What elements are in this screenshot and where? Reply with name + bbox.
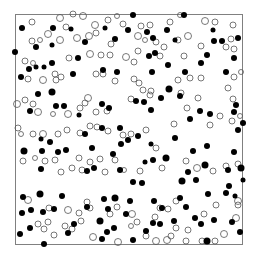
open-point bbox=[212, 238, 218, 244]
filled-point bbox=[235, 127, 241, 133]
filled-point bbox=[204, 143, 210, 149]
filled-point bbox=[202, 162, 209, 169]
open-point bbox=[97, 156, 103, 162]
filled-point bbox=[84, 204, 90, 210]
filled-point bbox=[97, 218, 104, 225]
open-point bbox=[173, 225, 179, 231]
open-point bbox=[33, 156, 38, 161]
filled-point bbox=[150, 220, 156, 226]
filled-point bbox=[198, 60, 204, 66]
open-point bbox=[29, 19, 35, 25]
filled-point bbox=[187, 116, 193, 122]
open-point bbox=[22, 58, 28, 64]
filled-point bbox=[148, 107, 154, 113]
open-point bbox=[87, 123, 93, 129]
open-point bbox=[221, 231, 228, 238]
filled-point bbox=[157, 221, 163, 227]
filled-point bbox=[130, 12, 136, 18]
open-point bbox=[184, 105, 190, 111]
open-point bbox=[51, 112, 56, 117]
open-point bbox=[14, 101, 21, 108]
filled-point bbox=[173, 38, 178, 43]
filled-point bbox=[166, 86, 173, 93]
filled-point bbox=[164, 27, 170, 33]
open-point bbox=[90, 234, 97, 241]
filled-point bbox=[69, 27, 74, 32]
open-point bbox=[93, 71, 99, 77]
filled-point bbox=[233, 102, 239, 108]
filled-point bbox=[146, 53, 152, 59]
filled-point bbox=[61, 103, 67, 109]
open-point bbox=[94, 124, 100, 130]
open-point bbox=[38, 38, 43, 43]
filled-point bbox=[223, 69, 229, 75]
filled-point bbox=[141, 99, 147, 105]
open-point bbox=[87, 51, 94, 58]
open-point bbox=[25, 76, 31, 82]
open-point bbox=[171, 121, 177, 127]
filled-point bbox=[118, 141, 124, 147]
open-point bbox=[159, 165, 165, 171]
open-point bbox=[143, 38, 148, 43]
point-pattern-plot bbox=[0, 0, 256, 256]
filled-point bbox=[89, 145, 95, 151]
open-point bbox=[231, 74, 237, 80]
open-point bbox=[131, 76, 137, 82]
open-point bbox=[65, 111, 72, 118]
open-point bbox=[57, 15, 64, 22]
filled-point bbox=[27, 108, 33, 114]
open-point bbox=[87, 159, 93, 165]
filled-point bbox=[39, 137, 44, 142]
filled-point bbox=[211, 38, 217, 44]
open-point bbox=[20, 158, 26, 164]
filled-point bbox=[226, 183, 232, 189]
filled-point bbox=[82, 131, 88, 137]
filled-point bbox=[193, 177, 199, 183]
filled-point bbox=[159, 205, 165, 211]
filled-point bbox=[75, 55, 81, 61]
filled-point bbox=[205, 191, 211, 197]
open-point bbox=[147, 22, 153, 28]
filled-point bbox=[211, 28, 216, 33]
filled-point bbox=[100, 67, 106, 73]
open-point bbox=[22, 97, 28, 103]
open-point bbox=[58, 169, 64, 175]
open-point bbox=[181, 53, 187, 59]
filled-point bbox=[114, 69, 120, 75]
filled-point bbox=[231, 55, 237, 61]
filled-point bbox=[127, 198, 133, 204]
filled-point bbox=[237, 229, 243, 235]
filled-point bbox=[101, 196, 107, 202]
filled-point bbox=[38, 166, 44, 172]
open-point bbox=[29, 38, 35, 44]
filled-point bbox=[99, 236, 105, 242]
filled-point bbox=[59, 193, 65, 199]
filled-point bbox=[139, 180, 145, 186]
filled-point bbox=[65, 230, 71, 236]
open-point bbox=[168, 233, 174, 239]
open-point bbox=[183, 158, 189, 164]
filled-point bbox=[112, 195, 119, 202]
open-point bbox=[165, 206, 171, 212]
filled-point bbox=[185, 169, 191, 175]
open-point bbox=[148, 88, 154, 94]
filled-point bbox=[117, 167, 123, 173]
filled-point bbox=[130, 179, 136, 185]
open-point bbox=[140, 87, 146, 93]
open-point bbox=[58, 74, 64, 80]
filled-point bbox=[241, 178, 246, 183]
open-point bbox=[138, 23, 144, 29]
open-point bbox=[207, 122, 213, 128]
open-point bbox=[30, 131, 36, 137]
filled-point bbox=[99, 125, 105, 131]
open-point bbox=[40, 131, 47, 138]
filled-point bbox=[225, 167, 231, 173]
open-point bbox=[77, 130, 83, 136]
filled-point bbox=[82, 39, 88, 45]
open-point bbox=[76, 155, 82, 161]
open-point bbox=[45, 219, 51, 225]
open-point bbox=[52, 157, 58, 163]
open-point bbox=[175, 77, 181, 83]
filled-point bbox=[165, 62, 171, 68]
filled-point bbox=[33, 44, 39, 50]
